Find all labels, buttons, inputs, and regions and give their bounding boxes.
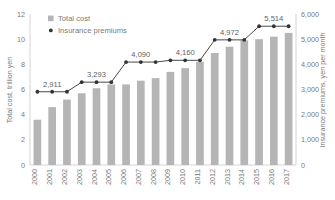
data-point-label: 4,160 — [176, 48, 195, 57]
x-axis-tick-label: 2011 — [193, 169, 202, 184]
bar — [270, 37, 278, 165]
bar — [137, 81, 145, 165]
bar — [181, 68, 189, 165]
y-axis-tick-label: 12 — [17, 10, 25, 19]
x-axis-tick-label: 2007 — [134, 169, 143, 185]
y2-axis-title: Insurance premiums, yen per month — [318, 32, 327, 147]
bar — [107, 84, 115, 165]
data-point-label: 3,293 — [87, 70, 106, 79]
legend-label: Total cost — [58, 14, 91, 23]
x-axis-tick-label: 2003 — [75, 169, 84, 185]
bar — [93, 88, 101, 165]
line-marker — [95, 80, 99, 84]
x-axis-ticks: 2000200120022003200420052006200720082009… — [30, 169, 290, 185]
x-axis-tick-label: 2004 — [90, 169, 99, 185]
line-marker — [257, 24, 261, 28]
data-point-label: 2,911 — [43, 80, 61, 89]
line-path — [37, 26, 288, 92]
y-axis-tick-label: 0 — [21, 161, 25, 170]
x-axis-tick-label: 2016 — [267, 169, 276, 185]
bar — [211, 53, 219, 165]
line-marker — [213, 38, 217, 42]
y2-axis-tick-label: 3,000 — [301, 85, 319, 94]
line-marker — [80, 80, 84, 84]
y-axis-tick-label: 2 — [21, 135, 25, 144]
y2-axis-tick-label: 4,000 — [301, 60, 319, 69]
line-marker — [198, 58, 202, 62]
x-axis-tick-label: 2002 — [60, 169, 69, 185]
y-axis-tick-label: 8 — [21, 60, 25, 69]
line-marker — [139, 60, 143, 64]
legend-swatch-circle-icon — [49, 29, 53, 33]
line-marker — [109, 80, 113, 84]
line-marker — [50, 90, 54, 94]
x-axis-tick-label: 2013 — [223, 169, 232, 185]
line-marker — [183, 58, 187, 62]
data-point-label: 4,090 — [131, 50, 150, 59]
x-axis-tick-label: 2006 — [119, 169, 128, 185]
y2-axis-tick-label: 0 — [301, 161, 305, 170]
y2-axis-tick-label: 5,000 — [301, 35, 319, 44]
y-axis-title: Total cost, trillion yen — [5, 57, 14, 124]
x-axis-tick-label: 2005 — [104, 169, 113, 185]
x-axis-tick-label: 2010 — [178, 169, 187, 185]
x-axis-tick-label: 2014 — [237, 169, 246, 185]
bar — [167, 72, 175, 165]
x-axis-tick-label: 2008 — [149, 169, 158, 185]
x-axis-tick-label: 2000 — [30, 169, 39, 185]
line-series-insurance-premiums — [35, 24, 290, 93]
x-axis-tick-label: 2012 — [208, 169, 217, 185]
bar-series-total-cost — [34, 33, 293, 165]
y-axis-tick-label: 6 — [21, 85, 25, 94]
y2-axis-tick-label: 6,000 — [301, 10, 319, 19]
bar — [240, 40, 248, 165]
y-axis-tick-label: 4 — [21, 110, 25, 119]
x-axis-tick-label: 2015 — [252, 169, 261, 185]
line-marker — [287, 24, 291, 28]
line-marker — [168, 58, 172, 62]
x-axis-tick-label: 2001 — [45, 169, 54, 185]
line-marker — [124, 60, 128, 64]
line-marker — [228, 38, 232, 42]
y2-axis-tick-label: 1,000 — [301, 135, 319, 144]
bar — [196, 62, 204, 165]
dual-axis-bar-line-chart: 024681012 01,0002,0003,0004,0005,0006,00… — [0, 0, 335, 200]
bar — [34, 120, 42, 165]
y2-axis-tick-label: 2,000 — [301, 110, 319, 119]
legend-swatch-square-icon — [48, 16, 54, 22]
line-marker — [65, 90, 69, 94]
line-marker — [272, 24, 276, 28]
line-marker — [35, 90, 39, 94]
bar — [78, 93, 86, 165]
legend-label: Insurance premiums — [58, 26, 127, 35]
data-point-label: 4,972 — [220, 28, 239, 37]
bar — [48, 107, 56, 165]
bar — [152, 78, 160, 165]
x-axis-tick-label: 2017 — [282, 169, 291, 185]
chart-legend: Total costInsurance premiums — [48, 14, 127, 35]
line-marker — [154, 60, 158, 64]
y2-axis-ticks: 01,0002,0003,0004,0005,0006,000 — [301, 10, 319, 170]
bar — [285, 33, 293, 165]
bar — [63, 100, 71, 165]
bar — [226, 47, 234, 165]
chart-container: 024681012 01,0002,0003,0004,0005,0006,00… — [0, 0, 335, 200]
bar — [255, 39, 263, 165]
y-axis-ticks: 024681012 — [17, 10, 25, 170]
data-point-label: 5,514 — [264, 14, 283, 23]
y-axis-tick-label: 10 — [17, 35, 25, 44]
bar — [122, 84, 130, 165]
line-marker — [242, 38, 246, 42]
x-axis-tick-label: 2009 — [163, 169, 172, 185]
